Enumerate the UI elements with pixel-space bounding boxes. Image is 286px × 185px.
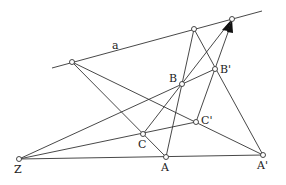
point-p3: [230, 17, 235, 22]
lines: [19, 11, 263, 159]
point-z: [17, 157, 22, 162]
diagram: a B B' C C' Z A A': [0, 0, 286, 185]
label-z: Z: [14, 163, 22, 176]
label-b: B: [169, 72, 177, 85]
label-aprime: A': [256, 159, 268, 172]
line-p1-aprime: [72, 62, 263, 155]
line-z-bprime: [19, 69, 215, 159]
label-bprime: B': [220, 63, 231, 76]
line-z-aprime: [19, 155, 263, 159]
point-c: [141, 132, 146, 137]
point-cprime: [194, 120, 199, 125]
point-aprime: [261, 153, 266, 158]
line-p1-a: [72, 62, 166, 157]
label-c: C: [138, 138, 146, 151]
line-p2-aprime: [194, 29, 263, 155]
point-b: [180, 82, 185, 87]
label-cprime: C': [201, 114, 212, 127]
point-p2: [192, 27, 197, 32]
label-a: a: [112, 39, 119, 52]
point-a: [164, 155, 169, 160]
line-p2-a: [166, 29, 194, 157]
point-p1: [70, 60, 75, 65]
label-a-point: A: [160, 161, 170, 174]
point-bprime: [213, 67, 218, 72]
